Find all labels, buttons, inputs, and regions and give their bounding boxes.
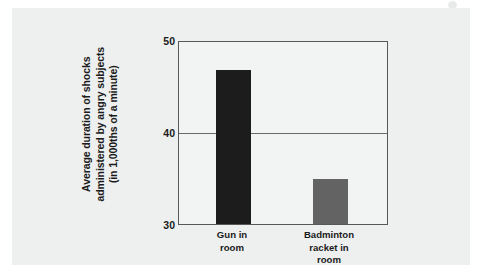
x-label-gun-in-room: Gun in room — [177, 229, 287, 254]
plot-area — [178, 41, 388, 225]
y-axis-tick-labels: 30 40 50 — [145, 41, 175, 225]
gridline-40 — [179, 133, 387, 134]
y-axis-title: Average duration of shocks administered … — [80, 29, 121, 219]
y-tick-label-50: 50 — [149, 35, 175, 47]
bar-badminton-racket-in-room — [313, 179, 348, 224]
chart-figure-panel: Average duration of shocks administered … — [12, 8, 470, 265]
y-tick-label-30: 30 — [149, 219, 175, 231]
bar-gun-in-room — [216, 70, 251, 224]
x-label-badminton-racket-in-room: Badminton racket in room — [274, 229, 384, 267]
y-tick-label-40: 40 — [149, 127, 175, 139]
x-axis-tick-labels: Gun in room Badminton racket in room — [178, 229, 388, 274]
